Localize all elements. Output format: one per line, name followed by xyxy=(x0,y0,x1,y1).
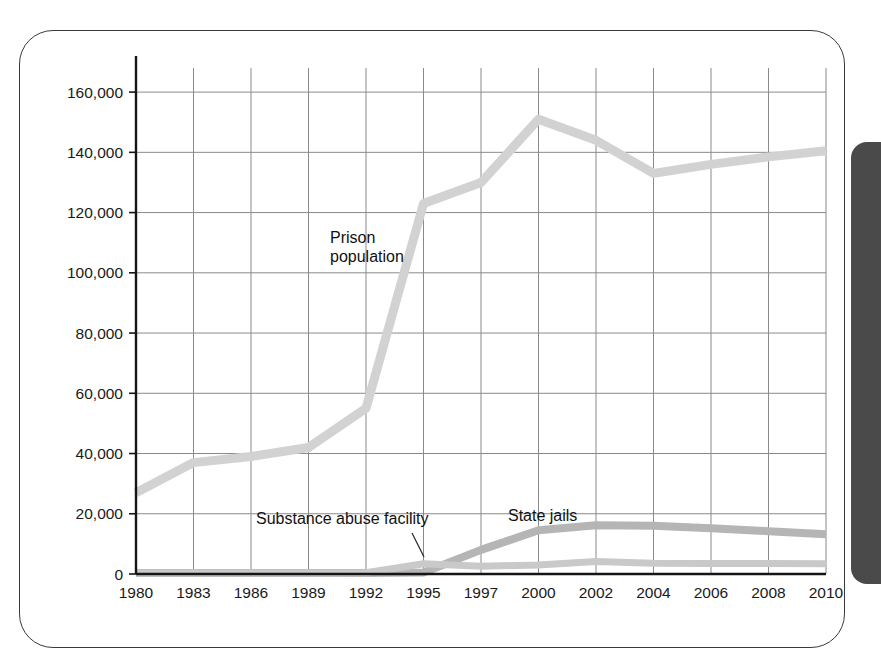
y-axis-tick-label: 40,000 xyxy=(76,445,124,462)
x-axis-tick-label: 1995 xyxy=(406,584,440,601)
x-axis-tick-label: 1989 xyxy=(291,584,325,601)
x-axis-tick-label: 1980 xyxy=(119,584,154,601)
series-annotation-substance-abuse-facility: Substance abuse facility xyxy=(256,510,429,527)
x-axis-tick-label: 2008 xyxy=(751,584,785,601)
gridlines xyxy=(136,68,826,574)
y-axis-tick-label: 20,000 xyxy=(76,505,124,522)
y-axis-tick-label: 120,000 xyxy=(67,204,123,221)
x-axis-tick-label: 1992 xyxy=(349,584,383,601)
y-axis-tick-label: 160,000 xyxy=(67,84,123,101)
x-axis-tick-label: 1983 xyxy=(176,584,210,601)
x-axis-tick-label: 1986 xyxy=(234,584,268,601)
x-axis-tick-label: 2006 xyxy=(694,584,728,601)
y-axis-tick-label: 140,000 xyxy=(67,144,123,161)
y-axis-tick-label: 80,000 xyxy=(76,325,124,342)
y-axis-tick-label: 0 xyxy=(114,566,123,583)
x-axis-tick-label: 2010 xyxy=(809,584,844,601)
axes xyxy=(129,56,826,574)
x-axis-tick-label: 2002 xyxy=(579,584,613,601)
y-axis-tick-label: 60,000 xyxy=(76,385,124,402)
x-axis-tick-label: 1997 xyxy=(464,584,498,601)
annotation-leader-substance-abuse-facility xyxy=(412,533,424,557)
series-annotation-prison-population: Prisonpopulation xyxy=(330,229,404,265)
line-chart: 020,00040,00060,00080,000100,000120,0001… xyxy=(0,0,881,662)
x-axis-tick-label: 2000 xyxy=(521,584,556,601)
x-axis-tick-label: 2004 xyxy=(636,584,671,601)
series-annotation-state-jails: State jails xyxy=(508,507,577,524)
y-axis-tick-label: 100,000 xyxy=(67,264,123,281)
